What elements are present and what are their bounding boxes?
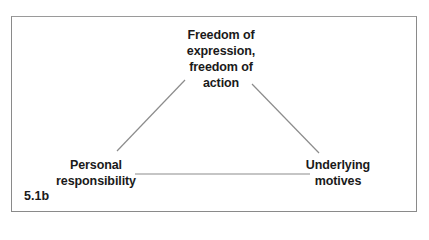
node-line: Personal bbox=[46, 157, 146, 173]
node-line: responsibility bbox=[46, 173, 146, 189]
node-line: action bbox=[160, 75, 282, 91]
node-line: expression, bbox=[160, 43, 282, 59]
node-line: Freedom of bbox=[160, 27, 282, 43]
figure-label: 5.1b bbox=[24, 189, 49, 203]
node-line: freedom of bbox=[160, 59, 282, 75]
node-underlying-motives: Underlying motives bbox=[296, 157, 380, 189]
node-line: motives bbox=[296, 173, 380, 189]
node-line: Underlying bbox=[296, 157, 380, 173]
node-personal-responsibility: Personal responsibility bbox=[46, 157, 146, 189]
node-freedom-of-expression: Freedom of expression, freedom of action bbox=[160, 27, 282, 91]
edge-top-right bbox=[252, 84, 319, 153]
